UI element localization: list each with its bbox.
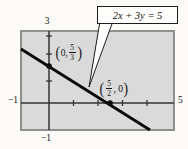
x-intercept-label: ( 5 2 , 0 ) [99, 80, 129, 98]
coord-pre: 0, [61, 48, 68, 58]
y-min-label: −1 [38, 134, 54, 144]
rparen: ) [123, 81, 128, 96]
fraction-five-halves: 5 2 [106, 80, 113, 98]
y-max-label: 3 [42, 17, 52, 27]
equation-callout: 2x + 3y = 5 [97, 6, 178, 24]
lparen: ( [56, 45, 61, 60]
fraction-numerator: 5 [106, 80, 113, 89]
coord-post: , 0 [113, 84, 123, 94]
equation-text: 2x + 3y = 5 [113, 10, 163, 21]
rparen: ) [77, 45, 82, 60]
lparen: ( [100, 81, 105, 96]
y-intercept-label: ( 0, 5 3 ) [55, 44, 82, 62]
x-intercept-point [107, 100, 113, 106]
fraction-numerator: 5 [69, 44, 76, 53]
fraction-five-thirds: 5 3 [69, 44, 76, 62]
fraction-denominator: 3 [70, 53, 74, 61]
y-intercept-point [46, 63, 52, 69]
x-min-label: −1 [3, 96, 18, 106]
x-max-label: 5 [178, 96, 188, 106]
fraction-denominator: 2 [107, 89, 111, 97]
math-figure: 3 −1 5 −1 2x + 3y = 5 ( 0, 5 3 ) ( 5 2 ,… [0, 0, 188, 149]
